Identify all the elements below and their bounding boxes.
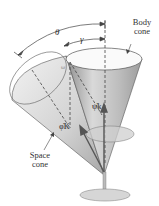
phi-dot-k-label: φ̇K [59,122,70,131]
space-cone-label: Space cone [24,151,56,169]
stand [80,172,130,201]
body-cone-label: Body cone [126,18,158,36]
plate-disk [86,126,134,142]
theta-symbol: θ [55,27,59,37]
gamma-arc [64,37,105,46]
psi-dot-k-label: ψ̇k [92,102,101,111]
gamma-symbol: γ [80,34,84,44]
omega-symbol: ω [61,64,65,70]
cone-word: cone [126,27,158,36]
cone-word: cone [24,160,56,169]
